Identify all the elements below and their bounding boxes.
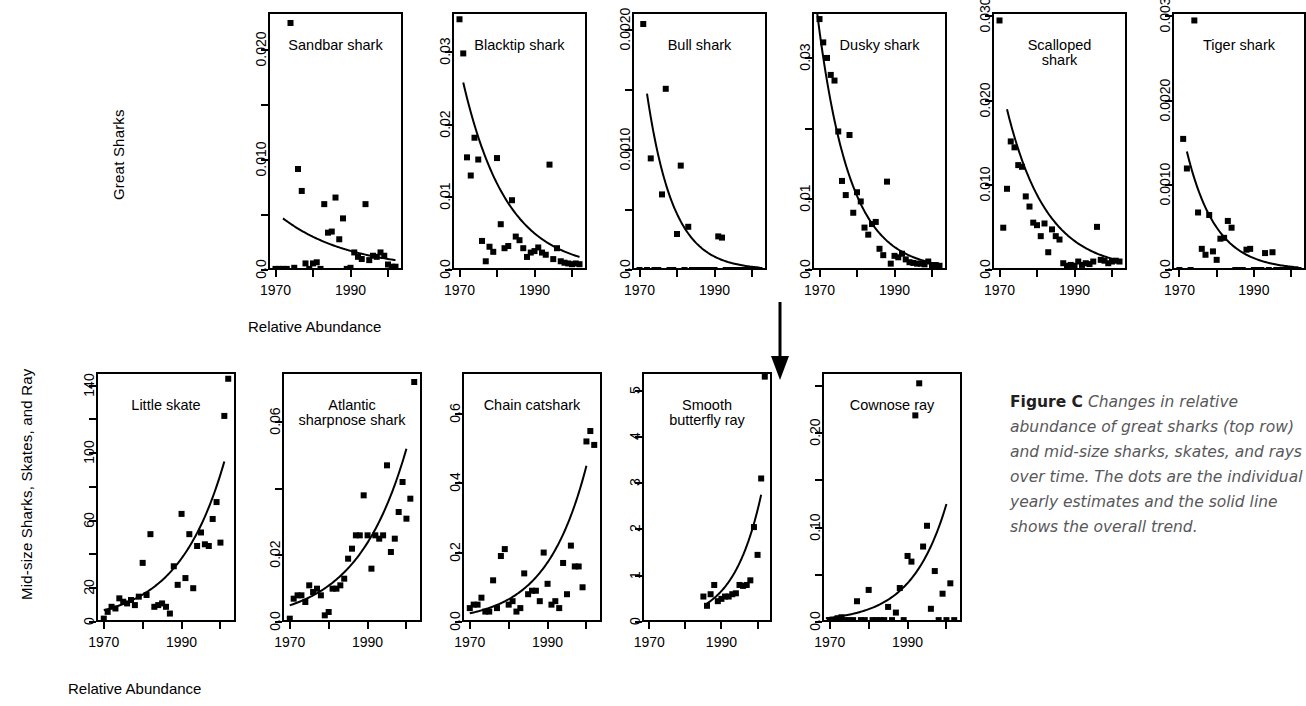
plot-area bbox=[282, 372, 422, 622]
x-tick-label: 1990 bbox=[518, 634, 578, 650]
data-point bbox=[295, 166, 301, 172]
plot-area bbox=[268, 12, 403, 270]
panel-tiger-shark: Tiger shark0.00.00100.00200.00319701990 bbox=[1172, 12, 1306, 270]
panel-chain-catshark: Chain catshark0.00.20.40.619701990 bbox=[462, 372, 602, 622]
y-tick-mark bbox=[625, 89, 632, 91]
panel-scalloped-shark: Scalloped shark0.00.0100.0200.0301970199… bbox=[992, 12, 1127, 270]
data-point bbox=[206, 543, 212, 549]
data-point bbox=[132, 602, 138, 608]
x-tick-label: 1970 bbox=[619, 634, 679, 650]
data-point bbox=[678, 163, 684, 169]
x-tick-mark bbox=[714, 270, 716, 277]
data-point bbox=[186, 531, 192, 537]
data-point bbox=[1195, 209, 1201, 215]
data-point bbox=[490, 577, 496, 583]
data-point bbox=[182, 575, 188, 581]
data-point bbox=[1034, 222, 1040, 228]
plot-area bbox=[822, 372, 962, 622]
data-point bbox=[198, 529, 204, 535]
panel-bull-shark: Bull shark0.00.00100.002019701990 bbox=[632, 12, 767, 270]
data-point bbox=[1004, 186, 1010, 192]
data-point bbox=[101, 616, 107, 622]
x-tick-mark bbox=[350, 270, 352, 277]
y-tick-label: 0.010 bbox=[977, 149, 993, 219]
data-point bbox=[854, 189, 860, 195]
data-point bbox=[564, 591, 570, 597]
y-tick-mark bbox=[815, 574, 822, 576]
data-point bbox=[179, 511, 185, 517]
data-point bbox=[284, 266, 290, 270]
data-point bbox=[655, 267, 661, 270]
x-tick-mark bbox=[1111, 270, 1113, 277]
data-point bbox=[839, 178, 845, 184]
data-point bbox=[510, 598, 516, 604]
data-point bbox=[824, 55, 830, 61]
data-point bbox=[580, 584, 586, 590]
data-point bbox=[393, 264, 399, 270]
data-point bbox=[936, 617, 942, 622]
x-tick-label: 1970 bbox=[800, 634, 860, 650]
x-tick-mark bbox=[829, 622, 831, 629]
x-tick-mark bbox=[648, 622, 650, 629]
data-point bbox=[163, 604, 169, 610]
plot-area bbox=[96, 372, 236, 622]
data-point bbox=[905, 553, 911, 559]
x-tick-label: 1970 bbox=[790, 282, 850, 298]
x-tick-mark bbox=[181, 622, 183, 629]
data-point bbox=[644, 267, 650, 270]
x-tick-mark bbox=[819, 270, 821, 277]
panel-cownose-ray: Cownose ray0.00.100.2019701990 bbox=[822, 372, 962, 622]
data-point bbox=[865, 232, 871, 238]
data-point bbox=[1184, 165, 1190, 171]
data-point bbox=[648, 155, 654, 161]
data-point bbox=[190, 585, 196, 591]
top-row-x-axis-title: Relative Abundance bbox=[248, 318, 381, 335]
x-tick-label: 1990 bbox=[691, 634, 751, 650]
x-tick-mark bbox=[1216, 270, 1218, 277]
y-tick-label: 60 bbox=[81, 485, 97, 555]
trend-line bbox=[470, 466, 587, 614]
data-point bbox=[321, 201, 327, 207]
trend-line bbox=[1007, 109, 1120, 260]
data-point bbox=[468, 173, 474, 179]
top-row-group-label: Great Sharks bbox=[110, 109, 127, 200]
data-point bbox=[947, 580, 953, 586]
panel-blacktip-shark: Blacktip shark0.00.010.020.0319701990 bbox=[452, 12, 587, 270]
figure-caption: Figure C Changes in relative abundance o… bbox=[1010, 390, 1306, 540]
y-tick-label: 5 bbox=[627, 355, 643, 425]
data-point bbox=[1221, 235, 1227, 241]
figure-caption-text: Changes in relative abundance of great s… bbox=[1010, 393, 1302, 536]
data-point bbox=[475, 157, 481, 163]
data-point bbox=[345, 556, 351, 562]
data-point bbox=[1090, 259, 1096, 265]
x-tick-mark bbox=[999, 270, 1001, 277]
data-point bbox=[287, 616, 293, 622]
data-point bbox=[1012, 144, 1018, 150]
data-point bbox=[916, 380, 922, 386]
data-point bbox=[341, 576, 347, 582]
data-point bbox=[847, 132, 853, 138]
x-tick-label: 1970 bbox=[246, 282, 306, 298]
data-point bbox=[483, 258, 489, 264]
data-point bbox=[381, 253, 387, 259]
y-tick-mark bbox=[805, 128, 812, 130]
x-tick-mark bbox=[1290, 270, 1292, 277]
data-point bbox=[591, 442, 597, 448]
data-point bbox=[711, 582, 717, 588]
data-point bbox=[937, 263, 943, 269]
x-tick-label: 1970 bbox=[260, 634, 320, 650]
data-point bbox=[333, 195, 339, 201]
data-point bbox=[587, 428, 593, 434]
data-point bbox=[337, 582, 343, 588]
panel-dusky-shark: Dusky shark0.00.010.0319701990 bbox=[812, 12, 947, 270]
plot-area bbox=[1172, 12, 1306, 270]
data-point bbox=[920, 544, 926, 550]
data-point bbox=[556, 605, 562, 611]
x-tick-label: 1990 bbox=[1224, 282, 1284, 298]
data-point bbox=[299, 188, 305, 194]
data-point bbox=[457, 16, 463, 22]
data-point bbox=[520, 245, 526, 251]
data-point bbox=[762, 374, 768, 380]
data-point bbox=[755, 552, 761, 558]
data-point bbox=[288, 20, 294, 26]
